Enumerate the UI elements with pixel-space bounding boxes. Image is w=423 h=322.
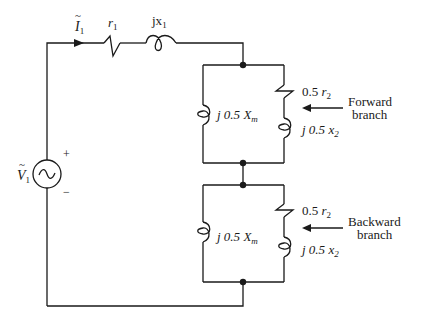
r1-label: r1 [108,15,118,32]
series-wire-right [176,43,243,65]
current-arrow-icon [74,39,84,47]
bottom-return-wire [47,282,243,306]
backward-arrow-icon [302,224,311,232]
node-forward-bottom [240,160,246,166]
forward-arrow-icon [302,104,311,112]
backward-xm-label: j 0.5 Xm [215,229,258,246]
plus-sign: + [63,147,70,161]
backward-annotation-line2: branch [357,227,393,242]
node-backward-top [240,182,246,188]
backward-r2-resistor-icon [276,204,293,217]
forward-x2-inductor-icon [279,118,291,138]
inductor-x1-icon [146,36,176,51]
backward-x2-inductor-icon [279,237,291,257]
ac-source [33,160,61,188]
forward-x2-label: j 0.5 x2 [300,122,339,139]
node-forward-top [240,62,246,68]
backward-r2-label: 0.5 r2 [302,203,331,220]
forward-xm-inductor-icon [198,105,210,125]
forward-r2-resistor-icon [276,85,293,98]
x1-label: jx1 [151,13,167,30]
forward-r2-label: 0.5 r2 [302,84,331,101]
resistor-r1-icon [104,36,120,56]
left-wire-upper [47,43,104,160]
minus-sign: − [63,185,70,199]
main-wires [47,43,243,306]
voltage-label: V1 [17,168,30,185]
circuit-diagram: I1 ~ r1 jx1 V1 ~ + − j 0.5 Xm 0.5 r2 j 0… [0,0,423,322]
current-tilde: ~ [75,9,81,21]
forward-xm-label: j 0.5 Xm [215,107,258,124]
forward-annotation-line2: branch [352,107,388,122]
sine-wave-icon [39,170,55,179]
backward-xm-inductor-icon [198,222,210,242]
current-label: I1 [74,19,84,36]
backward-x2-label: j 0.5 x2 [300,242,339,259]
node-backward-bottom [240,279,246,285]
voltage-tilde: ~ [19,158,25,170]
